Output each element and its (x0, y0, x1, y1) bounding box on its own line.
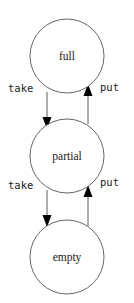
state-diagram: full partial empty take put take put (0, 0, 134, 303)
edge-label-take-upper: take (8, 82, 33, 94)
edge-partial-to-full (84, 84, 93, 124)
edge-label-take-lower: take (8, 179, 33, 191)
edge-label-put-upper: put (100, 81, 119, 93)
edge-empty-to-partial (84, 185, 93, 226)
state-label-empty: empty (53, 251, 82, 264)
state-node-partial[interactable]: partial (30, 119, 104, 193)
state-diagram-canvas: full partial empty take put take put (0, 0, 134, 303)
state-node-empty[interactable]: empty (30, 220, 104, 294)
state-label-partial: partial (52, 150, 81, 163)
edge-label-put-lower: put (100, 176, 119, 188)
state-node-full[interactable]: full (30, 19, 104, 93)
edge-partial-to-empty (43, 190, 52, 227)
state-label-full: full (59, 50, 75, 62)
